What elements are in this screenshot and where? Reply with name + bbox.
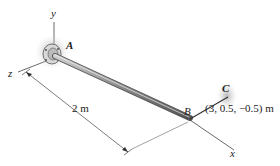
x-axis-line: [190, 120, 234, 150]
x-axis-label: x: [230, 148, 235, 159]
diagram-graphics: [0, 0, 280, 166]
coordinates-label: (3, 0.5, −0.5) m: [205, 103, 274, 114]
z-axis-label: z: [8, 68, 12, 79]
y-axis-label: y: [51, 8, 56, 19]
point-A-label: A: [66, 40, 73, 51]
dimension-label: 2 m: [72, 103, 89, 114]
point-B-label: B: [184, 106, 191, 117]
point-C-label: C: [222, 83, 229, 94]
diagram-canvas: y z x A B C 2 m (3, 0.5, −0.5) m: [0, 0, 280, 166]
